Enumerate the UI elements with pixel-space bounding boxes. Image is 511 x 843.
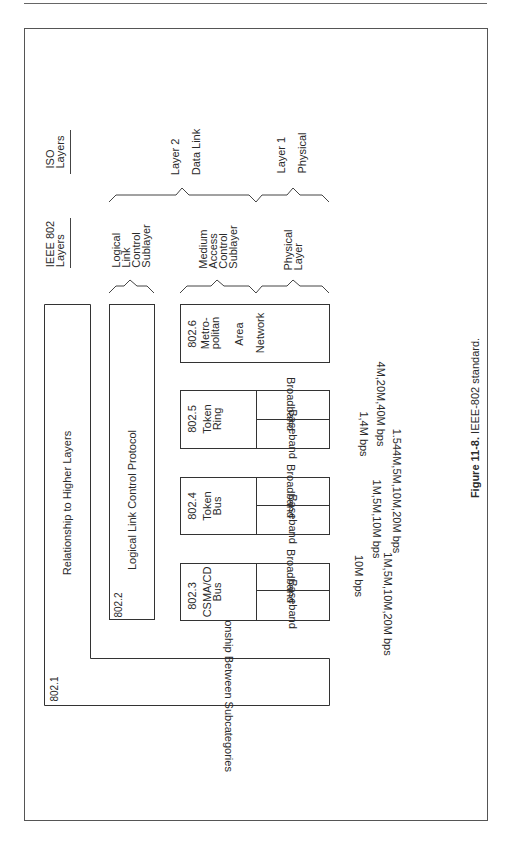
- std-802-5-name: Token Ring: [202, 404, 222, 433]
- std-802-4-baseband-speed: 1M,5M,10M bps: [371, 480, 382, 559]
- std-802-3-broadband-speed: 10M bps: [353, 555, 364, 597]
- std-802-4-id: 802.4: [187, 492, 198, 520]
- std-802-3-id: 802.3: [187, 582, 198, 610]
- std-802-6-name-network: Network: [255, 313, 266, 353]
- std-802-6-name-area: Area: [234, 322, 245, 345]
- figure-caption: Figure 11-8. IEEE-802 standard.: [470, 338, 481, 498]
- std-802-6-name-line2: politan: [210, 317, 220, 349]
- std-802-5-baseband-speed: 1,4M bps: [358, 411, 369, 456]
- std-802-4-name: Token Bus: [202, 491, 222, 520]
- std-802-5-name-line2: Ring: [212, 404, 222, 433]
- std-802-4-baseband-label: Baseband: [287, 494, 298, 544]
- std-802-5-broadband-speed: 4M,20M,40M bps: [375, 362, 386, 447]
- std-802-4-broadband-speed: 1.544M,5M,10M,20M bps: [391, 429, 402, 554]
- std-802-5-baseband-label: Baseband: [287, 409, 298, 459]
- figure-caption-text: IEEE-802 standard.: [469, 338, 481, 437]
- std-802-4-name-line2: Bus: [212, 491, 222, 520]
- std-802-3-name: CSMA/CD Bus: [202, 567, 222, 618]
- std-802-6-id: 802.6: [187, 320, 198, 348]
- std-802-6-name-1: Metro- politan: [200, 317, 220, 349]
- std-802-2-title: Logical Link Control Protocol: [127, 430, 138, 570]
- figure-caption-number: Figure 11-8.: [469, 437, 481, 498]
- std-802-3-name-line2: Bus: [212, 567, 222, 618]
- std-802-5-id: 802.5: [187, 405, 198, 433]
- std-802-3-baseband-label: Baseband: [287, 579, 298, 629]
- std-802-3-baseband-speed: 1M,5M,10M,20M bps: [382, 552, 393, 655]
- std-802-1-title: Relationship to Higher Layers: [62, 431, 73, 575]
- std-802-2-id: 802.2: [113, 592, 124, 617]
- std-802-1-id: 802.1: [49, 676, 60, 701]
